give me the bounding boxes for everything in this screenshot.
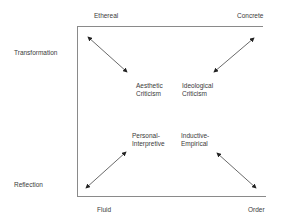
label-concrete: Concrete bbox=[237, 12, 263, 20]
arrow-bottom-left bbox=[86, 152, 126, 188]
label-reflection: Reflection bbox=[14, 181, 43, 189]
label-ethereal: Ethereal bbox=[94, 12, 118, 20]
label-transformation: Transformation bbox=[14, 49, 57, 57]
quadrant-personal-interpretive: Personal- Interpretive bbox=[132, 132, 165, 148]
quadrant-line1: Ideological bbox=[182, 82, 213, 90]
quadrant-ideological-criticism: Ideological Criticism bbox=[182, 82, 213, 98]
quadrant-line2: Empirical bbox=[181, 140, 209, 148]
arrow-top-right bbox=[214, 38, 254, 72]
label-order: Order bbox=[248, 206, 265, 214]
quadrant-line1: Personal- bbox=[132, 132, 165, 140]
quadrant-line2: Criticism bbox=[182, 90, 213, 98]
quadrant-inductive-empirical: Inductive- Empirical bbox=[181, 132, 209, 148]
quadrant-aesthetic-criticism: Aesthetic Criticism bbox=[136, 82, 163, 98]
quadrant-line2: Criticism bbox=[136, 90, 163, 98]
quadrant-line2: Interpretive bbox=[132, 140, 165, 148]
arrow-top-left bbox=[88, 37, 127, 72]
arrow-bottom-right bbox=[217, 153, 256, 188]
diagram-canvas bbox=[0, 0, 281, 224]
quadrant-line1: Aesthetic bbox=[136, 82, 163, 90]
label-fluid: Fluid bbox=[97, 206, 111, 214]
quadrant-line1: Inductive- bbox=[181, 132, 209, 140]
